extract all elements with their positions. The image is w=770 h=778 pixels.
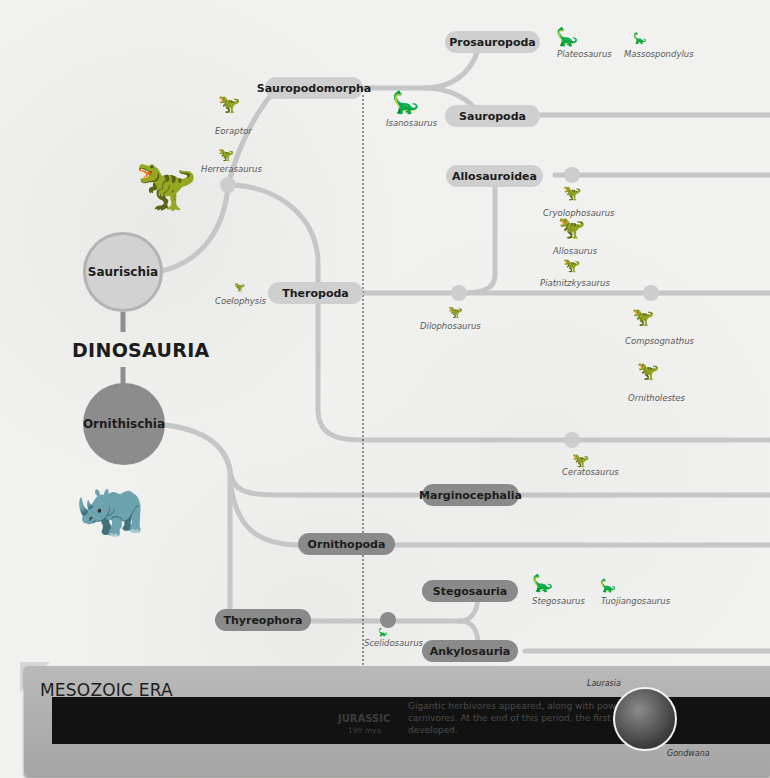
node-saurischia[interactable]: Saurischia: [83, 232, 163, 312]
species-cryolophosaurus: Cryolophosaurus: [543, 208, 615, 218]
clade-marginocephalia-label: Marginocephalia: [419, 489, 522, 502]
herrerasaurus-icon: 🦖: [218, 148, 234, 161]
species-ceratosaurus: Ceratosaurus: [562, 467, 619, 477]
plateosaurus-icon: 🦕: [556, 28, 578, 46]
diagram-title: DINOSAURIA: [72, 339, 210, 361]
species-isanosaurus: Isanosaurus: [386, 118, 437, 128]
era-period-date: 199 mya: [348, 726, 381, 735]
species-herrerasaurus: Herrerasaurus: [201, 164, 262, 174]
scelidosaurus-icon: 🦕: [378, 629, 388, 637]
species-compsognathus: Compsognathus: [625, 336, 694, 346]
dilophosaurus-icon: 🦖: [448, 306, 463, 318]
species-tuojiangosaurus: Tuojiangosaurus: [601, 596, 670, 606]
clade-allosauroidea-label: Allosauroidea: [452, 170, 537, 183]
clade-sauropodomorpha[interactable]: Sauropodomorpha: [265, 77, 363, 99]
clade-ornithopoda[interactable]: Ornithopoda: [298, 533, 395, 555]
globe-icon: [613, 687, 677, 751]
clade-theropoda[interactable]: Theropoda: [268, 282, 363, 304]
piatnitzkysaurus-icon: 🦖: [563, 258, 580, 272]
clade-prosauropoda-label: Prosauropoda: [449, 36, 536, 49]
species-eoraptor: Eoraptor: [215, 126, 252, 136]
clade-prosauropoda[interactable]: Prosauropoda: [445, 31, 540, 53]
era-period: JURASSIC: [338, 713, 390, 724]
clade-ankylosauria[interactable]: Ankylosauria: [422, 640, 518, 662]
globe-label-laurasia: Laurasia: [587, 679, 621, 688]
species-dilophosaurus: Dilophosaurus: [420, 321, 481, 331]
globe-label-gondwana: Gondwana: [667, 749, 710, 758]
cryolophosaurus-icon: 🦖: [563, 186, 582, 201]
compsognathus-icon: 🦖: [632, 308, 654, 326]
ornitholestes-icon: 🦖: [637, 362, 659, 380]
eoraptor-icon: 🦖: [218, 95, 240, 113]
clade-sauropoda[interactable]: Sauropoda: [445, 105, 540, 127]
species-scelidosaurus: Scelidosaurus: [364, 638, 423, 648]
stegosaurus-icon: 🦕: [532, 575, 553, 592]
species-stegosaurus: Stegosaurus: [532, 596, 585, 606]
node-saurischia-label: Saurischia: [88, 265, 158, 279]
ceratosaurus-icon: 🦖: [572, 453, 589, 467]
isanosaurus-icon: 🦕: [392, 92, 419, 114]
clade-ornithopoda-label: Ornithopoda: [308, 538, 386, 551]
clade-thyreophora[interactable]: Thyreophora: [215, 609, 311, 631]
species-coelophysis: Coelophysis: [215, 296, 266, 306]
species-piatnitzkysaurus: Piatnitzkysaurus: [540, 278, 610, 288]
clade-thyreophora-label: Thyreophora: [223, 614, 302, 627]
clade-sauropoda-label: Sauropoda: [459, 110, 526, 123]
species-allosaurus: Allosaurus: [553, 246, 597, 256]
tuojiangosaurus-icon: 🦕: [600, 579, 616, 592]
coelophysis-icon: 🦖: [234, 283, 245, 292]
clade-allosauroidea[interactable]: Allosauroidea: [446, 165, 543, 187]
clade-marginocephalia[interactable]: Marginocephalia: [422, 484, 519, 506]
clade-ankylosauria-label: Ankylosauria: [430, 645, 511, 658]
species-plateosaurus: Plateosaurus: [557, 49, 612, 59]
allosaurus-icon: 🦖: [558, 217, 585, 239]
node-ornithischia-label: Ornithischia: [83, 417, 165, 431]
clade-theropoda-label: Theropoda: [282, 287, 349, 300]
allosaurus-hero-icon: 🦖: [135, 160, 197, 210]
species-massospondylus: Massospondylus: [624, 49, 694, 59]
clade-stegosauria-label: Stegosauria: [433, 585, 508, 598]
triceratops-hero-icon: 🦏: [75, 480, 145, 536]
clade-sauropodomorpha-label: Sauropodomorpha: [257, 82, 372, 95]
species-ornitholestes: Ornitholestes: [628, 393, 685, 403]
clade-stegosauria[interactable]: Stegosauria: [422, 580, 518, 602]
massospondylus-icon: 🦕: [633, 33, 647, 44]
node-ornithischia[interactable]: Ornithischia: [83, 383, 165, 465]
